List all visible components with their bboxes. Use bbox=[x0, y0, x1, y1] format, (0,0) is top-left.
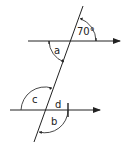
angle-a-label: a bbox=[54, 45, 60, 56]
angle-c-label: c bbox=[32, 94, 38, 105]
angle-b-label: b bbox=[51, 116, 57, 127]
transversal-line bbox=[34, 6, 83, 142]
angle-diagram: 70° a c d b bbox=[0, 0, 130, 154]
angle-d-label: d bbox=[55, 99, 61, 110]
angle-70-label: 70° bbox=[77, 26, 95, 37]
